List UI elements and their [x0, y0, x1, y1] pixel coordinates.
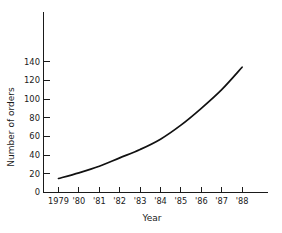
y-tick-label: 0 — [35, 187, 40, 197]
chart-container: 0 20 40 60 80 100 120 140 1979 '80 '81 — [0, 0, 282, 233]
y-tick-label: 20 — [29, 169, 40, 179]
y-tick-label: 40 — [29, 150, 40, 160]
y-axis-title: Number of orders — [6, 87, 16, 167]
x-tick-label: 1979 — [48, 196, 69, 206]
y-tick-label: 80 — [29, 113, 40, 123]
y-tick-marks — [44, 62, 51, 193]
y-tick-labels: 0 20 40 60 80 100 120 140 — [24, 57, 40, 198]
x-tick-marks — [59, 187, 243, 193]
y-tick-label: 60 — [29, 131, 40, 141]
x-tick-label: '81 — [93, 196, 106, 206]
x-tick-label: '85 — [175, 196, 188, 206]
x-tick-label: '86 — [195, 196, 208, 206]
x-tick-label: '83 — [134, 196, 147, 206]
x-tick-label: '80 — [73, 196, 86, 206]
x-axis-title: Year — [141, 213, 161, 223]
y-tick-label: 140 — [24, 57, 40, 67]
x-tick-label: '82 — [113, 196, 126, 206]
data-series-line — [59, 67, 243, 178]
line-chart: 0 20 40 60 80 100 120 140 1979 '80 '81 — [0, 0, 282, 233]
x-tick-label: '84 — [154, 196, 167, 206]
x-tick-label: '87 — [215, 196, 228, 206]
x-tick-labels: 1979 '80 '81 '82 '83 '84 '85 '86 '87 '88 — [48, 196, 248, 206]
x-tick-label: '88 — [236, 196, 249, 206]
y-tick-label: 100 — [24, 94, 40, 104]
y-tick-label: 120 — [24, 75, 40, 85]
